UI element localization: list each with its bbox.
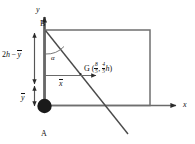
- angle-alpha-label: α: [51, 55, 55, 62]
- point-G-coord-close: ): [109, 64, 112, 73]
- y-axis-label: y: [36, 6, 40, 14]
- point-A-marker: [37, 99, 51, 113]
- x-axis-label: x: [183, 101, 187, 109]
- dimension-label-upper: 2h−y: [2, 50, 21, 59]
- diagonal-line-through-G: [46, 31, 129, 135]
- dimension-upper-var: y: [18, 50, 22, 59]
- point-B-label: B: [40, 20, 45, 28]
- geometry-figure: y x B A α 2h−y y x G(85,45h): [0, 0, 195, 144]
- dimension-upper-minus: −: [10, 50, 18, 59]
- dimension-label-horizontal: x: [59, 79, 63, 88]
- point-G-label: G: [84, 64, 90, 73]
- dimension-lower-var: y: [21, 93, 25, 102]
- dimension-horizontal-var: x: [59, 79, 63, 88]
- dimension-label-lower: y: [21, 93, 25, 102]
- point-A-label: A: [41, 130, 47, 138]
- point-G-marker: [79, 73, 81, 75]
- point-G-label-group: G(85,45h): [84, 62, 112, 74]
